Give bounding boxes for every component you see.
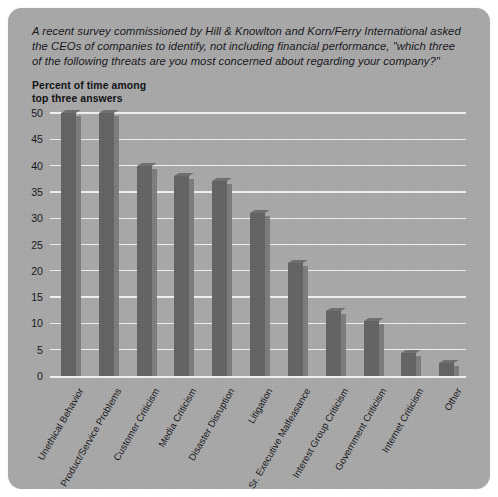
plot-area: 05101520253035404550 Unethical BehaviorP… xyxy=(50,113,466,376)
bar-slot xyxy=(88,113,126,376)
bar-slot xyxy=(353,113,391,376)
bar[interactable] xyxy=(137,166,152,376)
y-tick-label: 50 xyxy=(19,107,43,119)
y-axis-title-line-1: top three answers xyxy=(32,93,252,106)
bar[interactable] xyxy=(326,311,341,376)
chart-card: A recent survey commissioned by Hill & K… xyxy=(8,8,490,489)
bar-slot xyxy=(428,113,466,376)
x-axis-baseline xyxy=(50,376,466,378)
bar-slot xyxy=(50,113,88,376)
bar[interactable] xyxy=(364,321,379,376)
y-tick-label: 10 xyxy=(19,317,43,329)
x-tick-label: Other xyxy=(442,386,464,413)
bar[interactable] xyxy=(174,176,189,376)
y-tick-label: 25 xyxy=(19,239,43,251)
bar[interactable] xyxy=(61,113,76,376)
y-axis-title-line-0: Percent of time among xyxy=(32,80,252,93)
bar-slot xyxy=(126,113,164,376)
y-axis-title: Percent of time amongtop three answers xyxy=(32,80,252,105)
y-tick-label: 30 xyxy=(19,212,43,224)
bar-slot xyxy=(277,113,315,376)
bar-slot xyxy=(390,113,428,376)
bar[interactable] xyxy=(99,113,114,376)
bar-slot xyxy=(201,113,239,376)
bar-series xyxy=(50,113,466,376)
x-tick-label: Internet Criticism xyxy=(380,386,426,455)
y-tick-label: 20 xyxy=(19,265,43,277)
y-tick-label: 35 xyxy=(19,186,43,198)
bar-slot xyxy=(315,113,353,376)
bar[interactable] xyxy=(401,353,416,376)
survey-caption: A recent survey commissioned by Hill & K… xyxy=(32,24,464,70)
x-tick-label: Litigation xyxy=(246,386,275,425)
bar-slot xyxy=(163,113,201,376)
bar[interactable] xyxy=(212,181,227,376)
y-tick-label: 0 xyxy=(19,370,43,382)
bar[interactable] xyxy=(250,213,265,376)
x-tick-label: Media Criticism xyxy=(156,386,199,449)
y-tick-label: 15 xyxy=(19,291,43,303)
y-tick-label: 40 xyxy=(19,160,43,172)
bar-slot xyxy=(239,113,277,376)
bar[interactable] xyxy=(288,263,303,376)
bar[interactable] xyxy=(439,363,454,376)
y-tick-label: 5 xyxy=(19,344,43,356)
y-tick-label: 45 xyxy=(19,133,43,145)
